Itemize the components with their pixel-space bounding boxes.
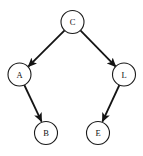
edge-l-to-e (102, 85, 119, 122)
node-b-label: B (43, 128, 49, 138)
node-a-label: A (16, 70, 23, 80)
node-e-label: E (95, 128, 100, 138)
edge-c-to-a (28, 30, 64, 66)
edge-c-to-l (80, 30, 115, 66)
diagram-canvas: C A L B E (0, 0, 143, 156)
node-l-label: L (121, 70, 126, 80)
node-a[interactable]: A (8, 63, 31, 86)
node-b[interactable]: B (35, 122, 58, 145)
edge-group (24, 30, 119, 121)
node-c[interactable]: C (61, 11, 84, 34)
node-e[interactable]: E (87, 122, 110, 145)
node-c-label: C (70, 17, 76, 27)
edge-a-to-b (24, 85, 41, 122)
directed-graph: C A L B E (0, 0, 143, 156)
node-group: C A L B E (8, 11, 136, 145)
node-l[interactable]: L (113, 63, 136, 86)
